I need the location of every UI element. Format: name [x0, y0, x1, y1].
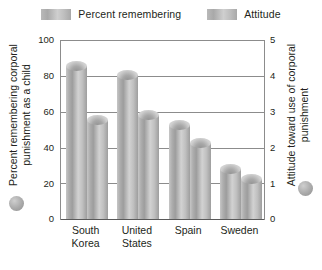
bar-percent-remembering	[220, 169, 241, 219]
axis-baseline	[60, 219, 265, 220]
category-label-south-korea: South Korea	[60, 224, 111, 264]
bar-cap-icon	[190, 138, 211, 148]
bar-cap-icon	[138, 110, 159, 120]
right-tick-4: 4	[270, 71, 292, 81]
category-label-spain: Spain	[163, 224, 214, 264]
right-tick-2: 2	[270, 143, 292, 153]
bar-group-united-states	[111, 40, 162, 219]
legend-item-percent-remembering: Percent remembering	[41, 9, 181, 20]
bar-cap-icon	[117, 70, 138, 80]
plot-area	[60, 40, 265, 219]
bar-cap-icon	[66, 61, 87, 71]
bar-percent-remembering	[117, 75, 138, 219]
category-axis-labels: South Korea United States Spain Sweden	[60, 224, 265, 264]
right-tick-0: 0	[270, 214, 292, 224]
bar-percent-remembering	[169, 125, 190, 219]
legend-swatch-icon	[207, 9, 237, 20]
right-axis-ticks: 5 4 3 2 1 0	[270, 0, 292, 270]
bar-cap-icon	[169, 120, 190, 130]
series-dot-left-icon	[9, 196, 24, 211]
left-tick-100: 100	[28, 35, 54, 45]
right-tick-5: 5	[270, 35, 292, 45]
bar-group-sweden	[214, 40, 265, 219]
left-tick-40: 40	[28, 143, 54, 153]
bar-group-south-korea	[60, 40, 111, 219]
left-tick-0: 0	[28, 214, 54, 224]
bar-attitude	[138, 115, 159, 219]
right-tick-3: 3	[270, 107, 292, 117]
bar-attitude	[190, 143, 211, 219]
left-tick-60: 60	[28, 107, 54, 117]
category-label-sweden: Sweden	[214, 224, 265, 264]
legend-label: Percent remembering	[78, 9, 181, 20]
dual-axis-bar-chart: Percent remembering Attitude 100 80 60 4…	[0, 0, 322, 270]
bar-group-spain	[163, 40, 214, 219]
left-tick-80: 80	[28, 71, 54, 81]
series-dot-right-icon	[298, 181, 313, 196]
right-tick-1: 1	[270, 179, 292, 189]
bar-attitude	[241, 179, 262, 219]
bar-groups	[60, 40, 265, 219]
bar-attitude	[87, 120, 108, 219]
left-axis-ticks: 100 80 60 40 20 0	[28, 0, 54, 270]
category-label-united-states: United States	[111, 224, 162, 264]
bar-percent-remembering	[66, 66, 87, 219]
left-tick-20: 20	[28, 179, 54, 189]
bar-cap-icon	[241, 174, 262, 184]
bar-cap-icon	[87, 115, 108, 125]
bar-cap-icon	[220, 164, 241, 174]
